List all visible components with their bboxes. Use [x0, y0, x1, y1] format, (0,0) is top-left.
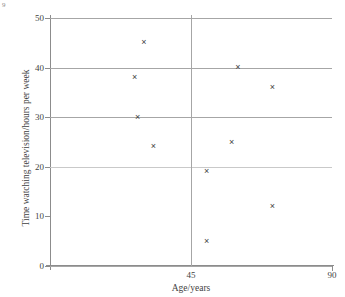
data-point — [203, 238, 210, 245]
y-axis-line — [50, 15, 51, 270]
y-tick-label-50: 50 — [35, 13, 44, 23]
data-point — [131, 74, 138, 81]
data-point — [235, 64, 242, 71]
x-tick-label-45: 45 — [187, 270, 196, 280]
page-corner-mark: 9 — [2, 1, 6, 9]
y-tick-label-40: 40 — [35, 63, 44, 73]
x-axis-title: Age/years — [50, 283, 332, 293]
y-tick-50 — [45, 18, 50, 19]
y-tick-label-0: 0 — [40, 261, 45, 271]
y-tick-label-20: 20 — [35, 162, 44, 172]
y-axis-title: Time watching television/hours per week — [21, 43, 31, 253]
data-point — [269, 84, 276, 91]
y-tick-0 — [45, 266, 50, 267]
y-tick-10 — [45, 216, 50, 217]
data-point — [134, 114, 141, 121]
y-tick-40 — [45, 68, 50, 69]
y-tick-30 — [45, 117, 50, 118]
x-tick-45 — [191, 15, 192, 266]
data-point — [141, 39, 148, 46]
data-point — [203, 168, 210, 175]
x-tick-label-90: 90 — [328, 270, 337, 280]
y-tick-20 — [45, 167, 50, 168]
plot-area: 01020304050 4590 — [50, 18, 332, 266]
data-point — [150, 143, 157, 150]
y-tick-label-30: 30 — [35, 112, 44, 122]
data-point — [269, 203, 276, 210]
gridline-y-0 — [50, 266, 332, 267]
scatter-plot-figure: 9 01020304050 4590 Age/years Time watchi… — [0, 0, 345, 297]
data-point — [228, 139, 235, 146]
y-tick-label-10: 10 — [35, 211, 44, 221]
